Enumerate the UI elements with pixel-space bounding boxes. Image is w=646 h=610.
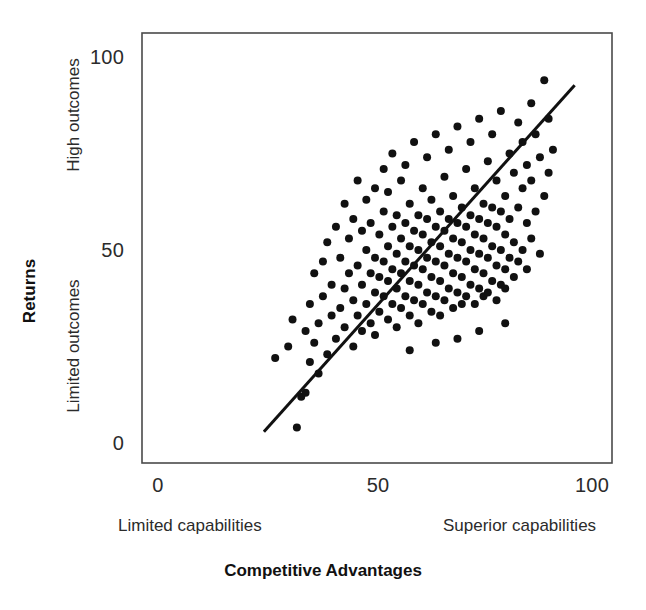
y-tick-label-50: 50 <box>62 239 124 262</box>
x-axis-title: Competitive Advantages <box>0 561 646 581</box>
x-tick-label-0: 0 <box>128 474 188 497</box>
x-axis-high-label: Superior capabilities <box>443 516 596 536</box>
x-tick-label-100: 100 <box>562 474 622 497</box>
y-tick-label-0: 0 <box>62 432 124 455</box>
x-axis-low-label: Limited capabilities <box>118 516 262 536</box>
plot-frame <box>142 33 612 463</box>
scatter-plot-figure: 100 50 0 0 50 100 High outcomes Limited … <box>0 0 646 610</box>
y-axis-low-label: Limited outcomes <box>64 266 84 426</box>
x-tick-label-50: 50 <box>348 474 408 497</box>
y-axis-title: Returns <box>20 248 40 334</box>
scatter-points <box>271 76 557 431</box>
trend-line <box>264 85 575 432</box>
y-axis-high-label: High outcomes <box>64 40 84 190</box>
